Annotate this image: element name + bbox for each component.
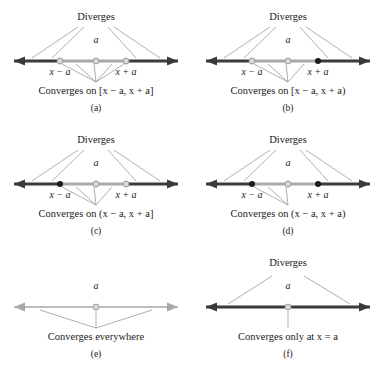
panel-a: Divergesax − ax + aConverges on [x − a, … — [0, 0, 192, 123]
panel-label: (c) — [0, 227, 192, 237]
caption-connector-2 — [96, 310, 152, 328]
left-endpoint-dot — [57, 181, 63, 187]
panel-d: Divergesax − ax + aConverges on (x − a, … — [192, 123, 384, 246]
diverges-connector-right-outer — [306, 27, 352, 58]
caption-connector-2 — [286, 187, 288, 205]
center-point-a-dot — [93, 181, 99, 187]
diverges-connector-right-inner — [300, 150, 328, 181]
diverges-connector-left-inner — [52, 150, 84, 181]
right-tick-label: x + a — [295, 66, 341, 77]
caption-connector-2 — [94, 187, 96, 205]
center-point-a-dot — [93, 304, 99, 310]
right-tick-label: x + a — [295, 189, 341, 200]
diverges-connector-right-inner — [108, 27, 136, 58]
diverges-label: Diverges — [192, 258, 384, 269]
right-arrowhead — [167, 56, 178, 65]
left-arrowhead — [14, 56, 25, 65]
diverges-label: Diverges — [0, 135, 192, 146]
diverges-connector-right-outer — [306, 150, 352, 181]
right-arrowhead — [359, 179, 370, 188]
panel-label: (d) — [192, 227, 384, 237]
center-tick-label-a: a — [278, 34, 298, 45]
diverges-label: Diverges — [192, 12, 384, 23]
right-arrowhead — [167, 302, 178, 311]
center-point-a-dot — [93, 58, 99, 64]
left-tick-label: x − a — [37, 66, 83, 77]
convergence-interval-figure: Divergesax − ax + aConverges on [x − a, … — [0, 0, 384, 370]
right-arrowhead — [359, 56, 370, 65]
panel-label: (e) — [0, 350, 192, 360]
right-endpoint-dot — [315, 58, 321, 64]
diverges-connector-right-inner — [300, 27, 328, 58]
right-endpoint-dot — [315, 181, 321, 187]
left-endpoint-dot — [249, 58, 255, 64]
panel-label: (f) — [192, 350, 384, 360]
convergence-caption: Converges on [x − a, x + a) — [192, 86, 384, 97]
caption-connector-2 — [94, 64, 96, 82]
diverges-connector-left-outer — [224, 150, 270, 181]
panel-label: (b) — [192, 104, 384, 114]
diverges-connector-left-outer — [224, 27, 270, 58]
center-tick-label-a: a — [278, 157, 298, 168]
left-endpoint-dot — [249, 181, 255, 187]
diverges-label: Diverges — [0, 12, 192, 23]
diverges-connector-left — [228, 276, 272, 304]
diverges-label: Diverges — [192, 135, 384, 146]
panel-label: (a) — [0, 104, 192, 114]
panel-f: DivergesaConverges only at x = a(f) — [192, 246, 384, 369]
convergence-caption: Converges on [x − a, x + a] — [0, 86, 192, 97]
diverges-connector-left-inner — [244, 27, 276, 58]
right-tick-label: x + a — [103, 189, 149, 200]
convergence-caption: Converges on (x − a, x + a) — [192, 209, 384, 220]
diverges-connector-right — [304, 276, 350, 304]
caption-connector-0 — [40, 310, 96, 328]
left-arrowhead — [206, 179, 217, 188]
diverges-connector-left-outer — [32, 27, 78, 58]
left-arrowhead — [14, 179, 25, 188]
panel-e: aConverges everywhere(e) — [0, 246, 192, 369]
panel-c: Divergesax − ax + aConverges on (x − a, … — [0, 123, 192, 246]
convergence-caption: Converges everywhere — [0, 332, 192, 343]
center-point-a-dot — [285, 304, 291, 310]
convergence-caption: Converges on (x − a, x + a] — [0, 209, 192, 220]
diverges-connector-left-outer — [32, 150, 78, 181]
left-tick-label: x − a — [229, 66, 275, 77]
right-arrowhead — [167, 179, 178, 188]
caption-connector-2 — [286, 64, 288, 82]
center-tick-label-a: a — [86, 34, 106, 45]
left-tick-label: x − a — [37, 189, 83, 200]
left-tick-label: x − a — [229, 189, 275, 200]
center-point-a-dot — [285, 58, 291, 64]
convergence-caption: Converges only at x = a — [192, 332, 384, 343]
right-endpoint-dot — [123, 58, 129, 64]
right-tick-label: x + a — [103, 66, 149, 77]
center-tick-label-a: a — [86, 280, 106, 291]
diverges-connector-left-inner — [244, 150, 276, 181]
left-endpoint-dot — [57, 58, 63, 64]
diverges-connector-right-inner — [108, 150, 136, 181]
diverges-connector-right-outer — [114, 27, 160, 58]
left-arrowhead — [14, 302, 25, 311]
left-arrowhead — [206, 56, 217, 65]
center-tick-label-a: a — [278, 280, 298, 291]
panel-b: Divergesax − ax + aConverges on [x − a, … — [192, 0, 384, 123]
center-point-a-dot — [285, 181, 291, 187]
diverges-connector-right-outer — [114, 150, 160, 181]
right-arrowhead — [359, 302, 370, 311]
left-arrowhead — [206, 302, 217, 311]
right-endpoint-dot — [123, 181, 129, 187]
diverges-connector-left-inner — [52, 27, 84, 58]
center-tick-label-a: a — [86, 157, 106, 168]
